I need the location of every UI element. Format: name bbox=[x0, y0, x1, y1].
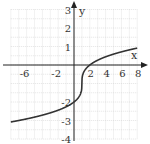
x-axis-arrow-icon bbox=[141, 62, 148, 68]
y-tick-label: -4 bbox=[61, 134, 71, 143]
y-tick-label: 3 bbox=[65, 5, 71, 16]
y-axis-arrow-icon bbox=[71, 1, 77, 8]
x-axis-label: x bbox=[131, 49, 138, 62]
tick-labels: -6-22468321-2-3-4 bbox=[20, 5, 142, 144]
function-graph: -6-22468321-2-3-4 x y bbox=[0, 0, 150, 143]
y-axis-label: y bbox=[78, 5, 86, 18]
x-tick-label: -6 bbox=[20, 68, 30, 79]
x-tick-label: 2 bbox=[88, 68, 94, 79]
x-tick-label: -2 bbox=[51, 68, 61, 79]
x-tick-label: 8 bbox=[135, 68, 141, 79]
graph-canvas: -6-22468321-2-3-4 x y bbox=[0, 0, 150, 143]
y-tick-label: -3 bbox=[61, 116, 71, 127]
x-tick-label: 6 bbox=[119, 68, 125, 79]
y-tick-label: -2 bbox=[61, 97, 71, 108]
y-tick-label: 1 bbox=[65, 42, 71, 53]
x-tick-label: 4 bbox=[103, 68, 109, 79]
y-tick-label: 2 bbox=[65, 23, 71, 34]
